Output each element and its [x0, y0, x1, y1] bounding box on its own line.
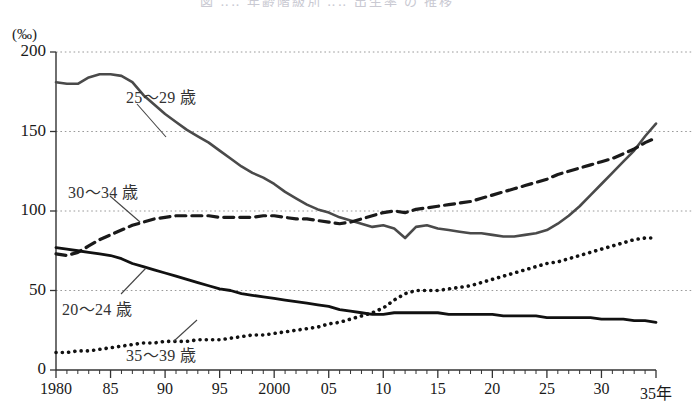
line-chart-svg: [0, 0, 699, 410]
data-series-group: [56, 74, 656, 352]
y-axis-label-150: 150: [2, 121, 46, 141]
y-axis-label-200: 200: [2, 41, 46, 61]
series-label-35〜39 歳: 35〜39 歳: [126, 342, 196, 366]
y-axis-label-100: 100: [2, 200, 46, 220]
y-axis-label-50: 50: [2, 280, 46, 300]
x-tick-marks-group: [56, 370, 656, 378]
series-line-30〜34歳: [56, 138, 656, 256]
x-axis-label-35年: 35年: [621, 380, 691, 404]
leader-line-25〜29 歳: [137, 104, 166, 137]
leader-line-20〜24 歳: [121, 268, 146, 294]
leader-line-35〜39 歳: [174, 320, 197, 341]
series-label-25〜29 歳: 25〜29 歳: [126, 84, 196, 108]
y-axis-label-0: 0: [2, 359, 46, 379]
y-tick-marks-group: [50, 52, 56, 370]
chart-container: 図 ‥‥ 年齢階級別 ‥‥ 出生率 の 推移 (‰) 050100150200 …: [0, 0, 699, 410]
series-label-20〜24 歳: 20〜24 歳: [62, 296, 132, 320]
series-label-30〜34 歳: 30〜34 歳: [68, 179, 138, 203]
series-line-35〜39歳: [56, 238, 656, 352]
